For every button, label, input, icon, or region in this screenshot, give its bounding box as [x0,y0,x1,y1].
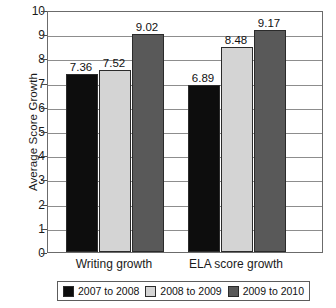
y-tick-mark [41,253,47,254]
bar [132,34,164,252]
bar [254,30,286,252]
legend-swatch [228,286,239,297]
legend-label: 2009 to 2010 [243,286,304,297]
legend-swatch [63,286,74,297]
bar-value-label: 7.52 [94,58,134,70]
bar [221,47,253,252]
bar [66,74,98,252]
chart-legend: 2007 to 20082008 to 20092009 to 2010 [57,281,310,301]
legend-swatch [145,286,156,297]
bar-chart-figure: Average Score Growth 109876543210 7.367.… [0,0,336,308]
legend-item[interactable]: 2009 to 2010 [228,286,304,297]
legend-label: 2007 to 2008 [78,286,139,297]
bar-value-label: 6.89 [183,73,223,85]
category-label: Writing growth [44,257,184,271]
category-label: ELA score growth [166,257,306,271]
legend-item[interactable]: 2007 to 2008 [63,286,139,297]
legend-label: 2008 to 2009 [160,286,221,297]
bar [188,85,220,252]
bar-value-label: 9.02 [127,22,167,34]
legend-item[interactable]: 2008 to 2009 [145,286,221,297]
bar [99,70,131,252]
bar-value-label: 8.48 [216,35,256,47]
plot-area [47,11,323,253]
bar-value-label: 9.17 [249,18,289,30]
